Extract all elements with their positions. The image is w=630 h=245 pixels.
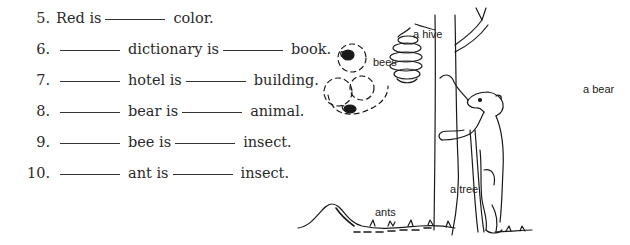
item-text: bee is	[128, 134, 171, 150]
illustration-tree-bear-bees-ants: a hive bees a bear a tree ants	[270, 0, 630, 245]
exercise-item-5: 5. Red is color.	[0, 10, 214, 30]
item-text: ant is	[128, 165, 169, 181]
label-bees: bees	[373, 56, 397, 68]
label-ants: ants	[375, 206, 396, 218]
item-number: 5.	[0, 10, 56, 26]
exercise-item-8: 8. bear is animal.	[0, 103, 304, 123]
item-text: hotel is	[128, 72, 182, 88]
item-number: 9.	[0, 134, 56, 150]
label-tree: a tree	[450, 183, 478, 195]
illustration-drawing	[270, 0, 630, 245]
answer-blank[interactable]	[182, 111, 242, 113]
item-number: 6.	[0, 41, 56, 57]
tree-icon	[415, 8, 488, 235]
answer-blank[interactable]	[60, 173, 120, 175]
answer-blank[interactable]	[60, 49, 120, 51]
answer-blank[interactable]	[105, 18, 165, 20]
item-text: bear is	[128, 103, 178, 119]
exercise-item-10: 10. ant is insect.	[0, 165, 289, 185]
label-bear: a bear	[583, 83, 614, 95]
item-text: color.	[173, 10, 213, 26]
item-number: 8.	[0, 103, 56, 119]
item-number: 7.	[0, 72, 56, 88]
answer-blank[interactable]	[60, 142, 120, 144]
item-text: dictionary is	[128, 41, 219, 57]
item-text: Red is	[56, 10, 101, 26]
bees-icon	[324, 44, 388, 114]
item-number: 10.	[0, 165, 56, 181]
answer-blank[interactable]	[186, 80, 246, 82]
answer-blank[interactable]	[175, 142, 235, 144]
answer-blank[interactable]	[173, 173, 233, 175]
answer-blank[interactable]	[60, 80, 120, 82]
bear-icon	[439, 75, 503, 233]
label-hive: a hive	[413, 28, 442, 40]
answer-blank[interactable]	[60, 111, 120, 113]
exercise-item-9: 9. bee is insect.	[0, 134, 292, 154]
